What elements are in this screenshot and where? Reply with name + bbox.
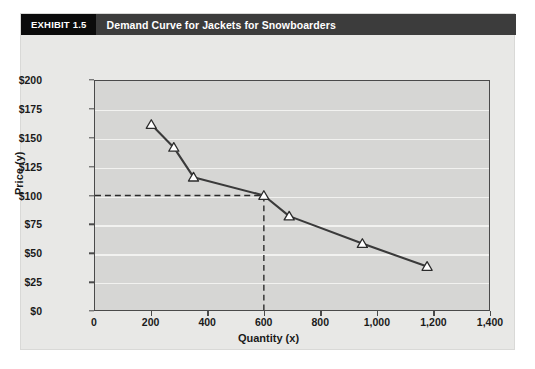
chart-area: Price (y) $0$25$50$75$100$125$150$175$20… bbox=[21, 35, 516, 351]
data-point-marker bbox=[146, 120, 156, 129]
x-tick-label: 400 bbox=[198, 316, 216, 328]
exhibit-number-badge: EXHIBIT 1.5 bbox=[21, 14, 96, 35]
x-tick-mark bbox=[320, 311, 321, 316]
x-tick-label: 1,200 bbox=[420, 316, 446, 328]
x-tick-label: 0 bbox=[91, 316, 97, 328]
y-axis-title: Price (y) bbox=[13, 152, 25, 195]
y-tick-label: $50 bbox=[24, 247, 42, 259]
x-axis-title: Quantity (x) bbox=[21, 332, 516, 344]
figure-page: EXHIBIT 1.5 Demand Curve for Jackets for… bbox=[0, 0, 535, 369]
x-tick-label: 800 bbox=[312, 316, 330, 328]
x-tick-mark bbox=[151, 311, 152, 316]
y-tick-label: $150 bbox=[19, 132, 42, 144]
y-tick-label: $25 bbox=[24, 276, 42, 288]
x-tick-label: 1,000 bbox=[364, 316, 390, 328]
plot-svg bbox=[95, 81, 489, 310]
x-tick-mark bbox=[490, 311, 491, 316]
y-tick-label: $75 bbox=[24, 218, 42, 230]
plot-frame bbox=[94, 80, 490, 311]
y-tick-label: $125 bbox=[19, 161, 42, 173]
reference-lines bbox=[95, 196, 264, 311]
x-tick-label: 1,400 bbox=[477, 316, 503, 328]
x-tick-mark bbox=[433, 311, 434, 316]
exhibit-title: Demand Curve for Jackets for Snowboarder… bbox=[96, 14, 336, 35]
y-tick-label: $175 bbox=[19, 103, 42, 115]
demand-curve-line bbox=[151, 125, 427, 267]
x-tick-mark bbox=[377, 311, 378, 316]
x-tick-label: 600 bbox=[255, 316, 273, 328]
x-tick-mark bbox=[207, 311, 208, 316]
y-tick-label: $100 bbox=[19, 190, 42, 202]
x-tick-mark bbox=[264, 311, 265, 316]
exhibit-header: EXHIBIT 1.5 Demand Curve for Jackets for… bbox=[21, 14, 516, 35]
x-tick-label: 200 bbox=[142, 316, 160, 328]
y-tick-label: $200 bbox=[19, 74, 42, 86]
y-tick-label: $0 bbox=[30, 305, 42, 317]
exhibit-panel: EXHIBIT 1.5 Demand Curve for Jackets for… bbox=[20, 13, 515, 350]
